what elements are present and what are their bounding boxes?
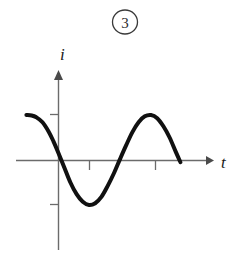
y-axis-arrow-icon: [54, 70, 63, 80]
x-axis-arrow-icon: [206, 156, 214, 165]
figure-number-badge: 3: [113, 10, 138, 34]
figure-number-text: 3: [121, 15, 129, 31]
waveform-figure: 3 t i: [0, 0, 243, 263]
y-axis-label: i: [60, 45, 65, 64]
figure-container: 3 t i: [0, 0, 243, 263]
x-axis-label: t: [221, 153, 227, 172]
